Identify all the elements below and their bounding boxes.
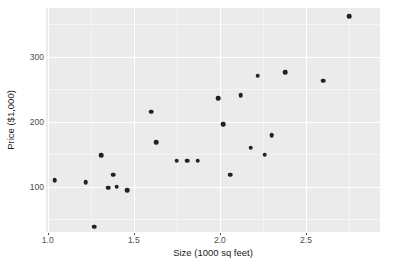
data-point — [255, 73, 260, 78]
gridline-major-vertical — [306, 8, 307, 232]
data-point — [216, 96, 221, 101]
gridline-minor-horizontal — [46, 154, 380, 155]
data-point — [269, 133, 274, 138]
data-point — [111, 173, 116, 178]
data-point — [149, 110, 154, 115]
plot-panel — [46, 8, 380, 232]
gridline-minor-vertical — [349, 8, 350, 232]
gridline-major-horizontal — [46, 187, 380, 188]
x-tick-label: 1.5 — [128, 235, 140, 245]
data-point — [154, 140, 159, 145]
x-tick-label: 1.0 — [42, 235, 54, 245]
gridline-major-vertical — [220, 8, 221, 232]
gridline-minor-horizontal — [46, 219, 380, 220]
gridline-minor-vertical — [91, 8, 92, 232]
y-tick-label: 300 — [18, 52, 44, 62]
data-point — [283, 70, 288, 75]
gridline-minor-vertical — [177, 8, 178, 232]
y-tick-label: 100 — [18, 182, 44, 192]
data-point — [347, 14, 352, 19]
y-tick-label: 200 — [18, 117, 44, 127]
gridline-minor-horizontal — [46, 89, 380, 90]
y-axis-ticks: 100200300 — [14, 0, 44, 269]
x-tick-mark — [306, 233, 307, 235]
x-tick-mark — [134, 233, 135, 235]
gridline-major-horizontal — [46, 122, 380, 123]
data-point — [249, 145, 254, 150]
x-axis-ticks: 1.01.52.02.5 — [0, 233, 393, 247]
x-tick-mark — [220, 233, 221, 235]
x-tick-mark — [48, 233, 49, 235]
gridline-major-horizontal — [46, 57, 380, 58]
data-point — [195, 158, 200, 163]
data-point — [106, 186, 111, 191]
gridline-minor-horizontal — [46, 24, 380, 25]
data-point — [238, 93, 243, 98]
data-point — [125, 188, 130, 193]
x-tick-label: 2.5 — [300, 235, 312, 245]
x-axis-title: Size (1000 sq feet) — [46, 247, 380, 258]
gridline-major-vertical — [134, 8, 135, 232]
data-point — [92, 225, 97, 230]
data-point — [262, 152, 267, 157]
data-point — [321, 78, 326, 83]
scatter-plot-figure: Price ($1,000) 100200300 1.01.52.02.5 Si… — [0, 0, 393, 269]
data-point — [114, 184, 119, 189]
gridline-minor-vertical — [263, 8, 264, 232]
x-tick-label: 2.0 — [214, 235, 226, 245]
data-point — [185, 158, 190, 163]
data-point — [228, 173, 233, 178]
data-point — [175, 158, 180, 163]
data-point — [83, 180, 88, 185]
data-point — [221, 122, 226, 127]
gridline-major-vertical — [48, 8, 49, 232]
data-point — [52, 178, 57, 183]
data-point — [99, 153, 104, 158]
